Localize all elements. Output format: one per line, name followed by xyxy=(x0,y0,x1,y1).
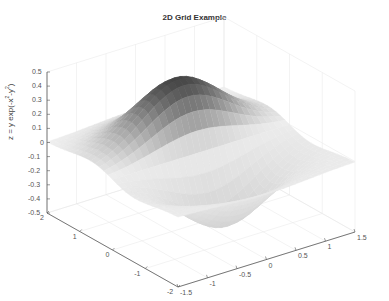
x-tick-label: -1 xyxy=(210,280,216,287)
z-tick-label: -0.2 xyxy=(28,167,40,174)
z-tick-label: 0 xyxy=(40,139,44,146)
y-tick-label: 1 xyxy=(73,233,77,240)
surface-plot xyxy=(0,0,389,301)
x-tick-label: 1 xyxy=(328,243,332,250)
x-tick-label: -1.5 xyxy=(180,289,192,296)
z-tick-label: -0.4 xyxy=(28,195,40,202)
z-tick-label: 0.4 xyxy=(32,82,42,89)
z-tick-label: 0.3 xyxy=(32,96,42,103)
z-tick-label: 0.1 xyxy=(32,124,42,131)
y-tick-label: -1 xyxy=(134,270,140,277)
z-tick-label: -0.1 xyxy=(28,153,40,160)
z-tick-label: 0.2 xyxy=(32,110,42,117)
x-tick-label: 1.5 xyxy=(357,234,367,241)
y-tick-label: -2 xyxy=(167,288,173,295)
y-tick-label: 2 xyxy=(40,214,44,221)
z-tick-label: -0.5 xyxy=(28,209,40,216)
x-tick-label: -0.5 xyxy=(239,271,251,278)
y-tick-label: 0 xyxy=(106,251,110,258)
x-tick-label: 0.5 xyxy=(298,252,308,259)
z-tick-label: 0.5 xyxy=(32,68,42,75)
x-tick-label: 0 xyxy=(269,262,273,269)
z-tick-label: -0.3 xyxy=(28,181,40,188)
